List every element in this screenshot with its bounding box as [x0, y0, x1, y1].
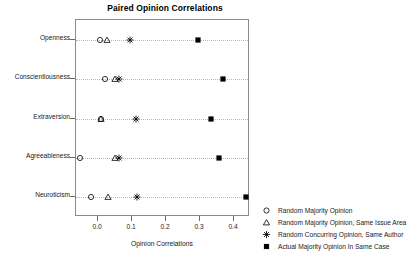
- data-point-open-triangle: [97, 114, 106, 123]
- y-tick-mark: [70, 78, 75, 79]
- data-point-asterisk: [126, 35, 135, 44]
- y-tick-label: Conscientiousness: [2, 73, 70, 80]
- legend-item-label: Actual Majority Opinion In Same Case: [274, 243, 389, 250]
- legend-item: Random Majority Opinion, Same Issue Area: [258, 216, 406, 228]
- legend-item: Random Majority Opinion: [258, 204, 406, 216]
- y-tick-label: Neuroticism: [2, 191, 70, 198]
- chart-figure: Paired Opinion Correlations OpennessCons…: [0, 0, 417, 263]
- data-point-filled-square: [219, 75, 228, 84]
- x-tick-label: 0.2: [150, 223, 180, 230]
- data-point-asterisk: [133, 193, 142, 202]
- data-point-filled-square: [194, 35, 203, 44]
- data-point-filled-square: [215, 153, 224, 162]
- x-tick-label: 0.1: [116, 223, 146, 230]
- legend-item: Actual Majority Opinion In Same Case: [258, 240, 406, 252]
- y-tick-label: Openness: [2, 34, 70, 41]
- legend-item-label: Random Concurring Opinion, Same Author: [274, 231, 403, 238]
- x-tick-mark: [199, 216, 200, 221]
- data-point-filled-square: [241, 193, 250, 202]
- legend-open-triangle-icon: [258, 216, 274, 228]
- x-tick-label: 0.0: [82, 223, 112, 230]
- x-tick-label: 0.4: [218, 223, 248, 230]
- y-tick-label-wrap: Conscientiousness: [0, 73, 70, 83]
- legend-item-label: Random Majority Opinion, Same Issue Area: [274, 219, 406, 226]
- y-tick-mark: [70, 157, 75, 158]
- y-tick-label-wrap: Agreeableness: [0, 152, 70, 162]
- plot-area: [75, 19, 249, 216]
- data-point-open-circle: [76, 153, 85, 162]
- chart-title: Paired Opinion Correlations: [0, 3, 330, 13]
- data-point-filled-square: [206, 114, 215, 123]
- gridline: [76, 197, 248, 198]
- legend-filled-square-icon: [258, 240, 274, 252]
- y-tick-mark: [70, 118, 75, 119]
- x-axis-title: Opinion Correlations: [75, 240, 249, 247]
- data-point-asterisk: [132, 114, 141, 123]
- data-point-asterisk: [115, 75, 124, 84]
- legend-asterisk-icon: [258, 228, 274, 240]
- x-tick-mark: [165, 216, 166, 221]
- legend-open-circle-icon: [258, 204, 274, 216]
- y-tick-label-wrap: Extraversion: [0, 113, 70, 123]
- chart-legend: Random Majority OpinionRandom Majority O…: [258, 204, 406, 252]
- x-tick-mark: [97, 216, 98, 221]
- y-tick-label-wrap: Openness: [0, 34, 70, 44]
- x-tick-label: 0.3: [184, 223, 214, 230]
- y-tick-mark: [70, 39, 75, 40]
- y-tick-label: Extraversion: [2, 113, 70, 120]
- y-tick-label: Agreeableness: [2, 152, 70, 159]
- data-point-open-triangle: [103, 193, 112, 202]
- x-tick-mark: [131, 216, 132, 221]
- legend-item-label: Random Majority Opinion: [274, 207, 352, 214]
- data-point-asterisk: [115, 153, 124, 162]
- data-point-open-circle: [101, 75, 110, 84]
- legend-item: Random Concurring Opinion, Same Author: [258, 228, 406, 240]
- y-tick-label-wrap: Neuroticism: [0, 191, 70, 201]
- data-point-open-triangle: [102, 35, 111, 44]
- y-tick-mark: [70, 196, 75, 197]
- x-tick-mark: [233, 216, 234, 221]
- data-point-open-circle: [86, 193, 95, 202]
